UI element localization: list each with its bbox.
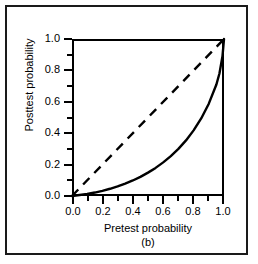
x-tick-minor-0.3 xyxy=(117,196,119,201)
x-tick-label-1: 0.2 xyxy=(88,206,118,217)
y-tick-major-0.8 xyxy=(64,69,72,71)
figure-outer-border: 1.0 0.8 0.6 0.4 0.2 0.0 0.0 0.2 0.4 0.6 … xyxy=(5,5,248,255)
x-tick-minor-0.5 xyxy=(147,196,149,201)
y-tick-label-1: 0.2 xyxy=(45,159,60,170)
x-tick-major-1.0 xyxy=(222,196,224,204)
x-tick-label-2: 0.4 xyxy=(118,206,148,217)
x-tick-minor-0.1 xyxy=(87,196,89,201)
y-tick-major-0.6 xyxy=(64,101,72,103)
x-tick-major-0.6 xyxy=(162,196,164,204)
x-tick-label-3: 0.6 xyxy=(148,206,178,217)
x-tick-minor-0.7 xyxy=(177,196,179,201)
chart-curves xyxy=(72,39,224,196)
y-tick-label-5: 1.0 xyxy=(45,33,60,44)
y-tick-major-1.0 xyxy=(64,38,72,40)
x-tick-major-0.2 xyxy=(102,196,104,204)
x-tick-major-0.8 xyxy=(192,196,194,204)
x-tick-minor-0.9 xyxy=(207,196,209,201)
y-tick-label-2: 0.4 xyxy=(45,127,60,138)
y-axis-label: Posttest probability xyxy=(23,25,35,145)
x-tick-major-0.4 xyxy=(132,196,134,204)
x-tick-major-0.0 xyxy=(72,196,74,204)
y-tick-label-3: 0.6 xyxy=(45,96,60,107)
y-tick-major-0.4 xyxy=(64,132,72,134)
plot-area: 1.0 0.8 0.6 0.4 0.2 0.0 0.0 0.2 0.4 0.6 … xyxy=(7,7,250,257)
panel-label: (b) xyxy=(68,236,228,248)
x-axis-label: Pretest probability xyxy=(68,222,228,234)
y-tick-label-4: 0.8 xyxy=(45,64,60,75)
x-tick-label-0: 0.0 xyxy=(58,206,88,217)
x-tick-label-4: 0.8 xyxy=(178,206,208,217)
y-tick-major-0.2 xyxy=(64,164,72,166)
x-tick-label-5: 1.0 xyxy=(208,206,238,217)
y-tick-label-0: 0.0 xyxy=(45,190,60,201)
